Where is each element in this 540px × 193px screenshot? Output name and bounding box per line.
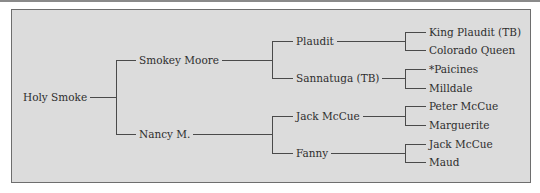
connector — [86, 97, 116, 98]
connector — [405, 162, 427, 163]
ggp-name: Peter McCue — [426, 100, 501, 112]
connector — [405, 69, 406, 89]
connector — [405, 32, 406, 51]
connector — [405, 88, 427, 89]
subject-name: Holy Smoke — [20, 91, 90, 103]
top-rule — [0, 0, 540, 2]
ggp-name: Marguerite — [426, 119, 493, 131]
connector — [272, 41, 405, 42]
ggp-name: Milldale — [426, 82, 475, 94]
ggp-name: Colorado Queen — [426, 44, 518, 56]
dam-dam-name: Fanny — [293, 147, 331, 159]
dam-sire-name: Jack McCue — [293, 110, 363, 122]
ggp-name: Maud — [426, 156, 463, 168]
connector — [405, 144, 406, 163]
ggp-name: King Plaudit (TB) — [426, 26, 524, 38]
connector — [405, 106, 427, 107]
dam-name: Nancy M. — [136, 128, 193, 140]
connector — [272, 116, 273, 154]
ggp-name: *Paicines — [426, 63, 481, 75]
sire-name: Smokey Moore — [136, 54, 222, 66]
connector — [116, 134, 136, 135]
ggp-name: Jack McCue — [426, 138, 496, 150]
connector — [405, 32, 427, 33]
connector — [272, 41, 273, 79]
sire-dam-name: Sannatuga (TB) — [293, 72, 382, 84]
connector — [405, 69, 427, 70]
connector — [116, 60, 117, 135]
connector — [405, 106, 406, 126]
connector — [272, 153, 405, 154]
connector — [405, 144, 427, 145]
sire-sire-name: Plaudit — [293, 35, 337, 47]
connector — [405, 50, 427, 51]
connector — [405, 125, 427, 126]
connector — [116, 60, 136, 61]
